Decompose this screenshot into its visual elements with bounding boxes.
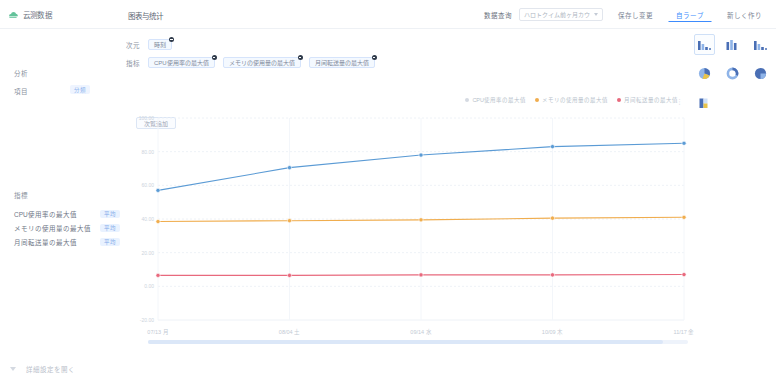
- line-chart-plot[interactable]: 100.0080.0060.0040.0020.000.00-20.00: [130, 114, 690, 326]
- dimension-label: 次元: [126, 40, 142, 50]
- metric-chip-label: 月间転送量の最大值: [315, 58, 369, 67]
- chart-type-row: [694, 34, 774, 55]
- chart-type-pie-split[interactable]: [750, 63, 771, 84]
- chart-type-pie[interactable]: [694, 63, 715, 84]
- left-dimension-label: 分析: [14, 68, 28, 78]
- remove-chip-icon[interactable]: [298, 55, 303, 60]
- metrics-sidebar: 指標 CPU使用率の最大值 平均 メモリの使用量の最大值 平均 月间転送量の最大…: [0, 190, 130, 249]
- footer-text: 詳細設定を開く: [26, 364, 75, 374]
- x-axis-tick-label: 07/13 月: [147, 328, 168, 336]
- metrics-sidebar-title: 指標: [14, 190, 130, 200]
- dimension-row: 次元 時刻: [126, 39, 174, 50]
- chart-type-donut[interactable]: [722, 63, 743, 84]
- x-axis-tick-label: 11/17 金: [674, 328, 695, 336]
- more-vertical-icon[interactable]: ⋮: [676, 98, 683, 106]
- dashboard-page: 云测数据 图表与统计 数据查询 ハロトクイム前ヶ月カウ 保存し变更 自ラーブ 新…: [0, 0, 776, 380]
- create-new-button[interactable]: 新しく作り: [719, 8, 770, 22]
- chart-type-panel: [694, 34, 774, 121]
- svg-text:0.00: 0.00: [144, 283, 154, 289]
- date-range-select-value: ハロトクイム前ヶ月カウ: [524, 10, 590, 19]
- metric-chip[interactable]: CPU使用率の最大值: [148, 57, 215, 68]
- metric-item-tag[interactable]: 平均: [100, 238, 120, 246]
- chevron-down-icon: [594, 13, 598, 16]
- svg-text:100.00: 100.00: [139, 115, 155, 121]
- metric-label: 指标: [126, 58, 142, 68]
- svg-text:-20.00: -20.00: [140, 317, 154, 323]
- brand-text: 云测数据: [23, 9, 52, 20]
- chart-x-axis: 07/13 月08/04 土09/14 水10/09 木11/17 金: [130, 328, 690, 338]
- legend-label: メモリの使用量の最大值: [542, 96, 608, 104]
- metric-chip-label: CPU使用率の最大值: [154, 58, 209, 67]
- chart-type-row: [694, 63, 774, 84]
- remove-chip-icon[interactable]: [212, 55, 217, 60]
- legend-label: CPU使用率の最大值: [472, 96, 526, 104]
- cloud-logo-icon: [8, 9, 19, 20]
- chart-type-bar-grouped[interactable]: [722, 34, 743, 55]
- horizontal-scrollbar[interactable]: [148, 340, 688, 344]
- legend-swatch-icon: [617, 98, 621, 102]
- svg-text:60.00: 60.00: [141, 182, 154, 188]
- x-axis-tick-label: 08/04 土: [279, 328, 300, 336]
- chart-type-bar-mixed[interactable]: [750, 34, 771, 55]
- legend-item[interactable]: メモリの使用量の最大值: [535, 96, 608, 104]
- brand[interactable]: 云测数据: [0, 9, 120, 20]
- metric-item-label: 月间転送量の最大值: [14, 237, 100, 247]
- autosave-button[interactable]: 自ラーブ: [668, 8, 712, 22]
- line-chart-svg: 100.0080.0060.0040.0020.000.00-20.00: [130, 114, 690, 326]
- legend-item[interactable]: 月间転送量の最大值: [617, 96, 678, 104]
- page-title: 图表与统计: [128, 10, 163, 21]
- legend-item[interactable]: CPU使用率の最大值: [465, 96, 526, 104]
- metric-row: 指标 CPU使用率の最大值 メモリの使用量の最大值 月间転送量の最大值: [126, 57, 377, 68]
- chart-type-stacked-bar[interactable]: [694, 92, 715, 113]
- chevron-down-icon[interactable]: [10, 367, 16, 371]
- list-item[interactable]: CPU使用率の最大值 平均: [0, 207, 130, 221]
- scrollbar-thumb[interactable]: [148, 340, 663, 344]
- x-axis-tick-label: 09/14 水: [410, 328, 431, 336]
- left-metric-label: 項目: [14, 86, 28, 96]
- top-bar: 云测数据 图表与统计 数据查询 ハロトクイム前ヶ月カウ 保存し变更 自ラーブ 新…: [0, 0, 776, 29]
- legend-swatch-icon: [465, 98, 469, 102]
- svg-text:20.00: 20.00: [141, 250, 154, 256]
- svg-text:40.00: 40.00: [141, 216, 154, 222]
- list-item[interactable]: 月间転送量の最大值 平均: [0, 235, 130, 249]
- metric-item-tag[interactable]: 平均: [100, 210, 120, 218]
- dimension-chip-label: 時刻: [154, 40, 166, 49]
- filter-panel: 分析 項目 分類 次元 時刻 指标 CPU使用率の最大值 メモリの使用量の最大值…: [0, 29, 776, 101]
- chart-type-row: [694, 92, 774, 113]
- left-metric-tag[interactable]: 分類: [70, 85, 90, 94]
- metric-item-label: メモリの使用量の最大值: [14, 223, 100, 233]
- query-filter-label: 数据查询: [484, 10, 512, 20]
- chart-legend: CPU使用率の最大值 メモリの使用量の最大值 月间転送量の最大值 ⋮: [465, 96, 678, 104]
- metric-chip-label: メモリの使用量の最大值: [229, 58, 295, 67]
- list-item[interactable]: メモリの使用量の最大值 平均: [0, 221, 130, 235]
- x-axis-tick-label: 10/09 木: [542, 328, 563, 336]
- chart-container: CPU使用率の最大值 メモリの使用量の最大值 月间転送量の最大值 ⋮ 100.0…: [130, 96, 690, 348]
- metric-chip[interactable]: 月间転送量の最大值: [309, 57, 375, 68]
- remove-chip-icon[interactable]: [372, 55, 377, 60]
- footer-bar: 詳細設定を開く: [0, 362, 776, 376]
- metric-chip[interactable]: メモリの使用量の最大值: [223, 57, 301, 68]
- chart-type-bar-descending[interactable]: [694, 34, 715, 55]
- legend-swatch-icon: [535, 98, 539, 102]
- svg-text:80.00: 80.00: [141, 149, 154, 155]
- save-changes-button[interactable]: 保存し变更: [610, 8, 661, 22]
- metric-item-tag[interactable]: 平均: [100, 224, 120, 232]
- legend-label: 月间転送量の最大值: [624, 96, 678, 104]
- metric-item-label: CPU使用率の最大值: [14, 209, 100, 219]
- top-bar-controls: 数据查询 ハロトクイム前ヶ月カウ 保存し变更 自ラーブ 新しく作り: [484, 0, 770, 29]
- dimension-chip[interactable]: 時刻: [148, 39, 172, 50]
- date-range-select[interactable]: ハロトクイム前ヶ月カウ: [519, 8, 603, 21]
- remove-chip-icon[interactable]: [169, 37, 174, 42]
